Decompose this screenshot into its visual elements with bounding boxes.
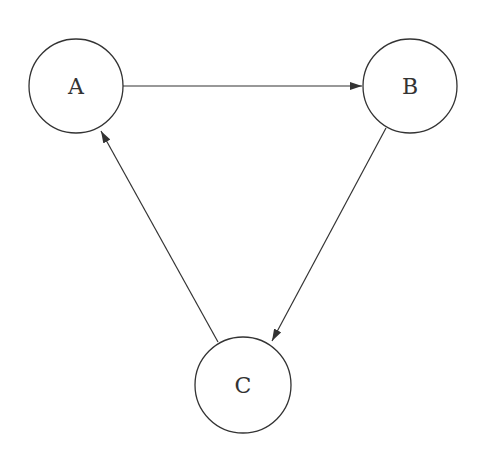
graph-diagram: ABC (0, 0, 487, 457)
node-a: A (29, 39, 123, 133)
node-label: B (402, 74, 418, 99)
nodes: ABC (29, 39, 457, 433)
edge-b-to-c-arrow (272, 128, 386, 341)
node-label: C (235, 373, 252, 398)
edges (101, 86, 386, 342)
node-b: B (363, 39, 457, 133)
node-c: C (195, 337, 291, 433)
edge-c-to-a-arrow (101, 131, 218, 342)
node-label: A (67, 74, 85, 99)
